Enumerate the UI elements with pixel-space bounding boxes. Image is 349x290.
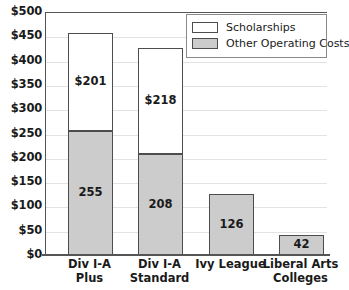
y-axis-tick-label: $250	[2, 128, 42, 140]
bar-value-label: 208	[148, 199, 172, 211]
x-axis-line	[42, 254, 330, 256]
legend-swatch-icon	[192, 38, 218, 49]
bar-group: 42	[279, 235, 324, 255]
bar-value-label: 42	[293, 239, 309, 251]
bar-group: 126	[209, 194, 254, 255]
y-axis-tick-label: $450	[2, 31, 42, 43]
legend-swatch-icon	[192, 22, 218, 33]
y-axis-tick-label: $0	[2, 249, 42, 261]
y-axis-tick-label: $200	[2, 152, 42, 164]
y-axis: $500$450$400$350$300$250$200$150$100$50$…	[0, 0, 42, 290]
chart-legend: ScholarshipsOther Operating Costs	[186, 14, 327, 58]
bar-value-label: $201	[74, 76, 106, 88]
bar-value-label: 126	[219, 219, 243, 231]
y-axis-tick-label: $350	[2, 79, 42, 91]
y-axis-tick-label: $100	[2, 201, 42, 213]
bar-segment-other-operating-costs: 255	[68, 131, 113, 255]
y-axis-tick-label: $500	[2, 6, 42, 18]
bar-group: 255$201	[68, 33, 113, 255]
x-axis-category-label: Liberal Arts Colleges	[256, 258, 346, 285]
bar-segment-scholarships: $201	[68, 33, 113, 131]
y-axis-tick-label: $400	[2, 55, 42, 67]
bar-segment-other-operating-costs: 126	[209, 194, 254, 255]
y-axis-tick-label: $300	[2, 103, 42, 115]
legend-item: Other Operating Costs	[192, 36, 321, 51]
bar-segment-scholarships: $218	[138, 48, 183, 154]
bar-segment-other-operating-costs: 42	[279, 235, 324, 255]
bar-segment-other-operating-costs: 208	[138, 154, 183, 255]
bar-value-label: 255	[78, 187, 102, 199]
bar-value-label: $218	[144, 95, 176, 107]
legend-item: Scholarships	[192, 20, 321, 35]
bar-group: 208$218	[138, 48, 183, 255]
legend-label: Scholarships	[226, 22, 296, 33]
y-axis-tick-label: $150	[2, 176, 42, 188]
y-axis-tick-label: $50	[2, 225, 42, 237]
legend-label: Other Operating Costs	[226, 38, 349, 49]
